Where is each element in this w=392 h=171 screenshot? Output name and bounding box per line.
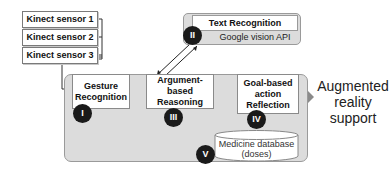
medicine-database-line1: Medicine database [214, 139, 299, 149]
google-vision-api-label: Google vision API [210, 32, 300, 42]
badge-i: I [73, 104, 92, 123]
badge-iii: III [164, 108, 183, 127]
kinect-sensor-1: Kinect sensor 1 [22, 11, 98, 28]
kinect-sensor-3: Kinect sensor 3 [22, 47, 98, 64]
badge-ii: II [183, 26, 202, 45]
text-recognition-box: Text Recognition [192, 15, 298, 31]
medicine-database: Medicine database (doses) [214, 130, 299, 160]
badge-iv: IV [247, 110, 266, 129]
kinect-sensor-2: Kinect sensor 2 [22, 29, 98, 46]
goal-action-box: Goal-based action Reflection [237, 74, 299, 114]
medicine-database-line2: (doses) [214, 149, 299, 159]
argument-reasoning-box: Argument-based Reasoning [146, 74, 214, 109]
medicine-database-label: Medicine database (doses) [214, 139, 299, 159]
augmented-reality-support-label: Augmented reality support [316, 78, 390, 126]
badge-v: V [196, 145, 215, 164]
